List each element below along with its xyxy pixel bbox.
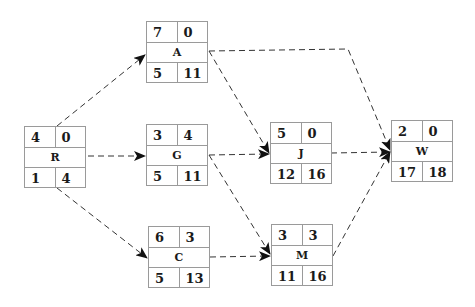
node-J-top-right: 0 xyxy=(302,123,332,143)
node-M-top-right: 3 xyxy=(303,225,333,245)
node-M-top-left: 3 xyxy=(272,225,303,245)
node-A-top-right: 0 xyxy=(178,22,208,42)
node-R-label: R xyxy=(25,148,85,167)
node-W-top-left: 2 xyxy=(392,121,423,141)
node-A-bottom-left: 5 xyxy=(147,63,178,83)
node-J-bottom-right: 16 xyxy=(302,164,332,184)
node-R-top-left: 4 xyxy=(25,127,56,147)
edge-A-J xyxy=(209,51,269,153)
node-R-top-right: 0 xyxy=(56,127,86,147)
edge-C-M xyxy=(210,256,270,257)
node-W: 20 W 1718 xyxy=(391,120,453,182)
node-G: 34 G 511 xyxy=(146,124,208,186)
node-A-top-left: 7 xyxy=(147,22,178,42)
node-C-label: C xyxy=(149,248,209,267)
node-M-bottom-left: 11 xyxy=(272,266,303,286)
node-J-top-left: 5 xyxy=(271,123,302,143)
node-C: 63 C 513 xyxy=(148,226,210,288)
node-W-bottom-right: 18 xyxy=(423,162,453,182)
edge-J-W xyxy=(331,152,390,153)
edge-M-W xyxy=(333,152,390,256)
node-C-top-right: 3 xyxy=(180,227,210,247)
node-A-label: A xyxy=(147,43,207,62)
node-J: 50 J 1216 xyxy=(270,122,332,184)
edge-R-A xyxy=(57,55,145,126)
node-W-label: W xyxy=(392,142,452,161)
node-C-bottom-right: 13 xyxy=(180,268,210,288)
node-M-bottom-right: 16 xyxy=(303,266,333,286)
node-A-bottom-right: 11 xyxy=(178,63,208,83)
node-M-label: M xyxy=(272,246,332,265)
node-W-bottom-left: 17 xyxy=(392,162,423,182)
node-G-top-right: 4 xyxy=(178,125,208,145)
node-G-label: G xyxy=(147,146,207,165)
edge-G-M xyxy=(209,155,270,254)
node-G-top-left: 3 xyxy=(147,125,178,145)
node-J-label: J xyxy=(271,144,331,163)
edge-R-C xyxy=(57,188,147,258)
node-C-bottom-left: 5 xyxy=(149,268,180,288)
node-J-bottom-left: 12 xyxy=(271,164,302,184)
node-R-bottom-left: 1 xyxy=(25,168,56,188)
node-C-top-left: 6 xyxy=(149,227,180,247)
edge-G-J xyxy=(209,154,269,155)
node-A: 70 A 511 xyxy=(146,21,208,83)
node-M: 33 M 1116 xyxy=(271,224,333,286)
node-R-bottom-right: 4 xyxy=(56,168,86,188)
node-W-top-right: 0 xyxy=(423,121,453,141)
node-R: 40 R 14 xyxy=(24,126,86,188)
node-G-bottom-right: 11 xyxy=(178,166,208,186)
node-G-bottom-left: 5 xyxy=(147,166,178,186)
